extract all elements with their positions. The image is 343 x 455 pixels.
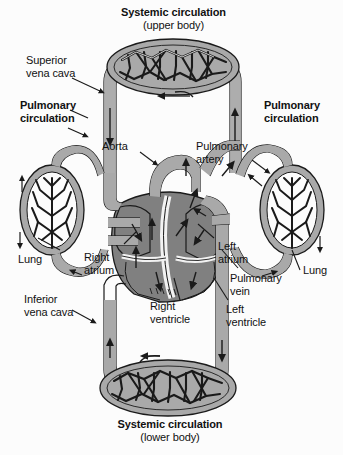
capillary-bed-upper (107, 39, 239, 95)
lung-right (260, 165, 324, 255)
systemic-upper-title: Systemic circulation (96, 6, 251, 18)
superior-vena-cava-label-line1: Superior (26, 54, 67, 66)
capillary-bed-lower (100, 360, 236, 416)
right-ventricle-label-line1: Right (150, 300, 175, 312)
left-atrium-label-line1: Left (218, 240, 236, 252)
pulmonary-vein-label-line2: vein (230, 285, 250, 297)
left-ventricle-label-line1: Left (226, 303, 244, 315)
inferior-vena-cava-label-line2: vena cava (24, 306, 73, 318)
circulatory-system-diagram: Systemic circulation (upper body) Superi… (0, 0, 343, 455)
pulmonary-vein-label-line1: Pulmonary (230, 272, 282, 284)
right-atrium-label-line1: Right (84, 251, 109, 263)
right-atrium-label-line2: atrium (84, 264, 114, 276)
pulmonary-circulation-right-line2: circulation (264, 112, 319, 124)
superior-vena-cava-label-line2: vena cava (26, 67, 75, 79)
aorta-label: Aorta (102, 140, 128, 152)
pulmonary-circulation-left-line1: Pulmonary (20, 99, 76, 111)
lung-left-label: Lung (18, 253, 42, 265)
left-atrium-label-line2: atrium (218, 253, 248, 265)
pulmonary-circulation-right-line1: Pulmonary (264, 99, 320, 111)
systemic-upper-subtitle: (upper body) (96, 19, 251, 31)
systemic-lower-title: Systemic circulation (90, 418, 250, 430)
systemic-lower-subtitle: (lower body) (90, 431, 250, 443)
right-ventricle-label-line2: ventricle (150, 313, 190, 325)
pulmonary-artery-label-line1: Pulmonary (196, 140, 248, 152)
lung-left (20, 165, 84, 255)
inferior-vena-cava-label-line1: Inferior (24, 293, 57, 305)
lung-right-label: Lung (303, 264, 327, 276)
pulmonary-circulation-left-line2: circulation (20, 112, 75, 124)
pulmonary-artery-label-line2: artery (196, 153, 224, 165)
left-ventricle-label-line2: ventricle (226, 316, 266, 328)
